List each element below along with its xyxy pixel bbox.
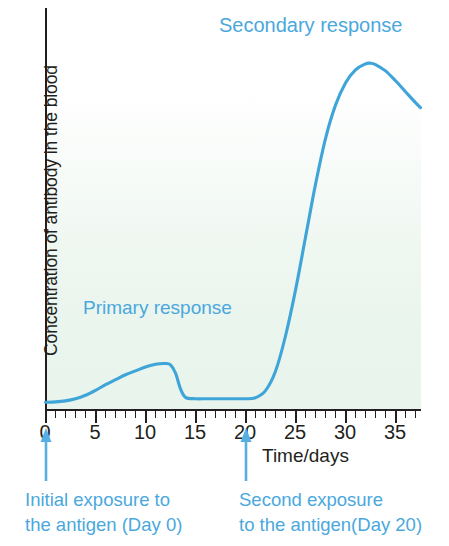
second-exposure-callout: Second exposure to the antigen(Day 20) [239,487,422,537]
x-axis-label: Time/days [262,445,349,467]
x-tick-2 [65,411,67,418]
x-tick-11 [155,411,157,418]
x-tick-31 [355,411,357,418]
x-tick-14 [185,411,187,418]
x-tick-label-30: 30 [334,421,356,444]
x-tick-16 [205,411,207,418]
x-tick-13 [175,411,177,418]
initial-exposure-line1: Initial exposure to [25,487,182,512]
x-tick-label-20: 20 [234,421,256,444]
x-tick-8 [125,411,127,418]
x-tick-label-15: 15 [184,421,206,444]
x-tick-9 [135,411,137,418]
primary-response-label: Primary response [83,297,232,319]
x-tick-6 [105,411,107,418]
x-tick-17 [215,411,217,418]
initial-exposure-line2: the antigen (Day 0) [25,512,182,537]
x-tick-36 [405,411,407,418]
x-tick-19 [235,411,237,418]
x-tick-23 [275,411,277,418]
x-tick-label-10: 10 [134,421,156,444]
x-tick-12 [165,411,167,418]
x-tick-28 [325,411,327,418]
antibody-response-chart: Concentration of antibody in the blood 0… [0,0,449,546]
x-tick-7 [115,411,117,418]
initial-exposure-callout: Initial exposure to the antigen (Day 0) [25,487,182,537]
x-tick-24 [285,411,287,418]
x-tick-18 [225,411,227,418]
x-tick-34 [385,411,387,418]
x-tick-26 [305,411,307,418]
x-tick-22 [265,411,267,418]
x-tick-3 [75,411,77,418]
x-tick-27 [315,411,317,418]
plot-background [46,0,421,409]
x-tick-33 [375,411,377,418]
y-axis-label: Concentration of antibody in the blood [41,1,62,421]
x-tick-label-5: 5 [89,421,100,444]
x-tick-29 [335,411,337,418]
x-tick-label-0: 0 [39,421,50,444]
y-axis-line [45,8,47,410]
x-tick-32 [365,411,367,418]
secondary-response-label: Secondary response [219,14,402,37]
x-tick-4 [85,411,87,418]
x-tick-1 [55,411,57,418]
x-tick-label-25: 25 [284,421,306,444]
x-tick-37 [415,411,417,418]
second-exposure-line2: to the antigen(Day 20) [239,512,422,537]
second-exposure-line1: Second exposure [239,487,422,512]
x-tick-label-35: 35 [384,421,406,444]
x-tick-21 [255,411,257,418]
